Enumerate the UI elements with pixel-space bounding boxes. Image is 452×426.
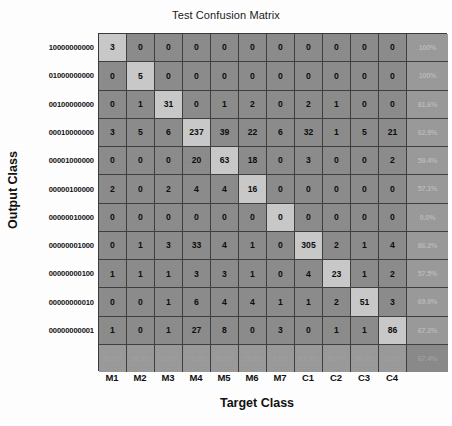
cell-count-value: 6 xyxy=(194,298,199,307)
matrix-cell-r9-c8: 4 xyxy=(295,260,323,288)
matrix-cell-r7-c1: 0 xyxy=(99,204,127,232)
row-percentage-value: 57.5% xyxy=(418,270,437,277)
matrix-cell-r11-c3: 1 xyxy=(155,317,183,345)
matrix-cell-r5-c2: 0 xyxy=(127,147,155,175)
matrix-cell-r2-c2: 5 xyxy=(127,62,155,90)
matrix-cell-r1-c9: 0 xyxy=(323,34,351,62)
matrix-cell-r5-c9: 0 xyxy=(323,147,351,175)
cell-count-value: 3 xyxy=(194,270,199,279)
matrix-cell-r9-c2: 1 xyxy=(127,260,155,288)
matrix-cell-r1-c8: 0 xyxy=(295,34,323,62)
row-percentage-cell-11: 67.2% xyxy=(407,317,448,345)
row-label-1: 10000000000 xyxy=(26,43,94,52)
column-label-m4: M4 xyxy=(182,372,210,383)
matrix-cell-r3-c10: 0 xyxy=(351,91,379,119)
cell-count-value: 3 xyxy=(278,326,283,335)
row-percentage-value: 100% xyxy=(419,72,437,79)
cell-count-value: 1 xyxy=(362,270,367,279)
column-percentage-cell-3: 63.9% xyxy=(155,345,183,372)
row-percentage-cell-2: 100% xyxy=(407,62,448,90)
cell-count-value: 3 xyxy=(222,270,227,279)
cell-count-value: 3 xyxy=(166,241,171,250)
column-percentage-cell-2: 38.5% xyxy=(127,345,155,372)
cell-count-value: 0 xyxy=(250,213,255,222)
row-percentage-cell-5: 59.4% xyxy=(407,147,448,175)
cell-count-value: 6 xyxy=(278,128,283,137)
column-label-m2: M2 xyxy=(126,372,154,383)
column-percentage-value: 63.9% xyxy=(159,355,178,362)
cell-count-value: 0 xyxy=(138,213,143,222)
column-percentage-cell-9: 76.7% xyxy=(323,345,351,372)
matrix-cell-r11-c6: 0 xyxy=(239,317,267,345)
matrix-cell-r11-c9: 1 xyxy=(323,317,351,345)
row-percentage-cell-7: 0.0% xyxy=(407,204,448,232)
column-percentage-value: 71.6% xyxy=(187,355,206,362)
y-axis-label: Output Class xyxy=(6,130,20,250)
matrix-cell-r10-c1: 0 xyxy=(99,288,127,316)
matrix-cell-r8-c4: 33 xyxy=(183,232,211,260)
matrix-cell-r1-c4: 0 xyxy=(183,34,211,62)
row-percentage-value: 67.2% xyxy=(418,327,437,334)
cell-count-value: 4 xyxy=(390,241,395,250)
matrix-cell-r2-c8: 0 xyxy=(295,62,323,90)
matrix-cell-r6-c7: 0 xyxy=(267,175,295,203)
cell-count-value: 237 xyxy=(189,128,203,137)
cell-count-value: 0 xyxy=(222,43,227,52)
column-percentage-value: 38.5% xyxy=(131,355,150,362)
row-label-3: 00100000000 xyxy=(26,100,94,109)
cell-count-value: 0 xyxy=(138,326,143,335)
matrix-cell-r6-c10: 0 xyxy=(351,175,379,203)
cell-count-value: 0 xyxy=(278,100,283,109)
cell-count-value: 0 xyxy=(194,100,199,109)
cell-count-value: 0 xyxy=(166,156,171,165)
matrix-cell-r6-c5: 4 xyxy=(211,175,239,203)
column-percentage-cell-10: 86.4% xyxy=(351,345,379,372)
matrix-cell-r11-c1: 1 xyxy=(99,317,127,345)
column-label-m1: M1 xyxy=(98,372,126,383)
cell-count-value: 1 xyxy=(222,100,227,109)
matrix-cell-r5-c5: 63 xyxy=(211,147,239,175)
cell-count-value: 0 xyxy=(250,72,255,81)
cell-count-value: 63 xyxy=(220,156,230,165)
matrix-cell-r8-c7: 0 xyxy=(267,232,295,260)
cell-count-value: 1 xyxy=(278,298,283,307)
cell-count-value: 1 xyxy=(138,100,143,109)
cell-count-value: 0 xyxy=(194,43,199,52)
matrix-cell-r6-c3: 2 xyxy=(155,175,183,203)
cell-count-value: 0 xyxy=(390,72,395,81)
cell-count-value: 0 xyxy=(138,298,143,307)
cell-count-value: 2 xyxy=(306,100,311,109)
matrix-cell-r5-c10: 0 xyxy=(351,147,379,175)
column-percentage-cell-7: 0.0% xyxy=(267,345,295,372)
cell-count-value: 3 xyxy=(110,43,115,52)
cell-count-value: 4 xyxy=(222,298,227,307)
matrix-cell-r4-c3: 6 xyxy=(155,119,183,147)
matrix-cell-r8-c10: 1 xyxy=(351,232,379,260)
cell-count-value: 5 xyxy=(138,128,143,137)
column-percentage-value: 0.0% xyxy=(273,355,289,362)
column-percentage-cell-11: 72.9% xyxy=(379,345,407,372)
matrix-cell-r9-c3: 1 xyxy=(155,260,183,288)
matrix-cell-r6-c4: 4 xyxy=(183,175,211,203)
column-percentage-cell-1: 30.0% xyxy=(99,345,127,372)
x-axis-label: Target Class xyxy=(97,396,417,410)
matrix-cell-r2-c5: 0 xyxy=(211,62,239,90)
cell-count-value: 0 xyxy=(278,270,283,279)
cell-count-value: 0 xyxy=(278,185,283,194)
cell-count-value: 3 xyxy=(110,128,115,137)
column-percentage-cell-8: 87.9% xyxy=(295,345,323,372)
matrix-cell-r5-c4: 20 xyxy=(183,147,211,175)
cell-count-value: 2 xyxy=(334,241,339,250)
matrix-cell-r11-c7: 3 xyxy=(267,317,295,345)
cell-count-value: 0 xyxy=(278,241,283,250)
cell-count-value: 1 xyxy=(362,326,367,335)
row-percentage-cell-8: 86.2% xyxy=(407,232,448,260)
matrix-cell-r9-c10: 1 xyxy=(351,260,379,288)
matrix-cell-r2-c3: 0 xyxy=(155,62,183,90)
cell-count-value: 1 xyxy=(138,241,143,250)
row-percentage-cell-1: 100% xyxy=(407,34,448,62)
cell-count-value: 22 xyxy=(248,128,258,137)
cell-count-value: 1 xyxy=(166,298,171,307)
row-label-8: 00000001000 xyxy=(26,241,94,250)
matrix-cell-r6-c6: 16 xyxy=(239,175,267,203)
